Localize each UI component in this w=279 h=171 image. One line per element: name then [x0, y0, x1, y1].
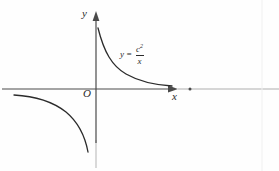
curve-branch-quadrant-3	[14, 95, 88, 152]
equation-lhs: y	[120, 50, 124, 59]
numerator-exponent: 2	[140, 43, 143, 49]
y-axis-label: y	[82, 8, 87, 19]
x-axis-label: x	[172, 91, 177, 102]
hyperbola-figure: y x O y = c2 x	[0, 0, 279, 171]
equation-numerator: c2	[134, 43, 145, 55]
curve-equation-label: y = c2 x	[120, 43, 145, 66]
equation-relation: =	[126, 50, 132, 59]
axis-end-dot	[189, 88, 192, 91]
y-axis-arrowhead	[93, 11, 100, 21]
graph-canvas	[0, 0, 279, 171]
equation-fraction: c2 x	[134, 43, 145, 66]
equation-denominator: x	[136, 55, 144, 66]
origin-label: O	[83, 88, 91, 99]
